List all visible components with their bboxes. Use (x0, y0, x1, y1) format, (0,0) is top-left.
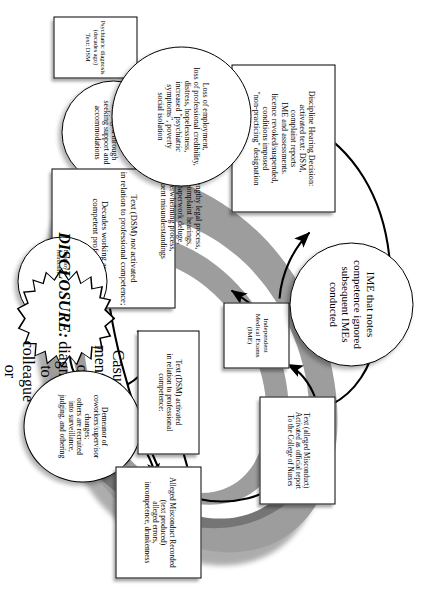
node-demeanor-change-text: Demeanor ofcoworkers/supervisorchanges;o… (56, 392, 108, 460)
node-psychiatric-diagnosis-text: Psychiatric diagnosis(decades ago)Text: … (83, 18, 107, 76)
node-official-report: Text (alleged Misconduct)Activated as of… (259, 396, 335, 504)
node-alleged-misconduct: Alleged Misconduct Recorded(text produce… (115, 466, 201, 578)
node-ime-ignored: IME that notescompetence ignoredsubseque… (289, 242, 413, 366)
node-dsm-activated-text: Text (DSM) activatedin relation to profe… (154, 351, 182, 433)
node-loss-of-employment: Loss of employment,loss of professional … (111, 46, 251, 186)
node-demeanor-change: Demeanor ofcoworkers/supervisorchanges;o… (23, 370, 141, 482)
node-ime: IndependentMedical Exams(IME) (223, 302, 289, 368)
node-discipline-hearing-text: Discipline Hearing Decision:activated te… (250, 88, 316, 188)
node-alleged-misconduct-text: Alleged Misconduct Recorded(text produce… (140, 475, 175, 569)
node-loss-of-employment-text: Loss of employment,loss of professional … (153, 65, 209, 168)
node-disclosure: DISCLOSURE:Casual mention ofdiagnosis to… (11, 262, 115, 374)
node-dsm-activated: Text (DSM) activatedin relation to profe… (137, 330, 199, 454)
diagram-stage: "The College" Psychiatric diagnosis(deca… (0, 0, 427, 596)
node-disclosure-text: DISCLOSURE:Casual mention ofdiagnosis to… (11, 262, 115, 374)
node-ime-text: IndependentMedical Exams(IME) (243, 311, 268, 359)
node-ime-ignored-text: IME that notescompetence ignoredsubseque… (325, 258, 376, 351)
node-psychiatric-diagnosis: Psychiatric diagnosis(decades ago)Text: … (53, 16, 137, 78)
node-official-report-text: Text (alleged Misconduct)Activated as of… (284, 409, 310, 490)
figure-canvas: "The College" Psychiatric diagnosis(deca… (0, 0, 427, 596)
